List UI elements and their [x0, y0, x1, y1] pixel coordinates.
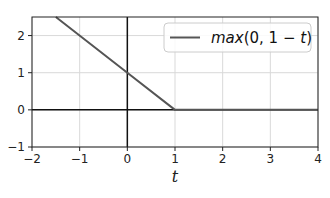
- legend-label-func: max: [211, 29, 244, 47]
- x-tick-label: −1: [71, 152, 89, 166]
- x-tick-label: 4: [314, 152, 322, 166]
- x-tick-label: 3: [267, 152, 275, 166]
- x-tick-label: 0: [124, 152, 132, 166]
- legend-label: max(0, 1 − t): [211, 29, 312, 47]
- legend-label-close: ): [306, 29, 312, 47]
- x-tick-label: 2: [219, 152, 227, 166]
- y-tick-label: 1: [17, 66, 25, 80]
- x-axis-ticks: −2−101234: [23, 147, 322, 166]
- legend: max(0, 1 − t): [164, 23, 312, 52]
- chart: −2−101234 −1012 t max(0, 1 − t): [0, 0, 330, 198]
- y-axis-ticks: −1012: [7, 29, 32, 154]
- x-tick-label: 1: [171, 152, 179, 166]
- y-tick-label: 2: [17, 29, 25, 43]
- x-tick-label: −2: [23, 152, 41, 166]
- y-tick-label: −1: [7, 140, 25, 154]
- x-axis-label: t: [172, 167, 179, 186]
- legend-label-args: (0, 1 −: [244, 29, 301, 47]
- y-tick-label: 0: [17, 103, 25, 117]
